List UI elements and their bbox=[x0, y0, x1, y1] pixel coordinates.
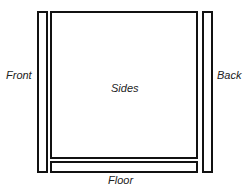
sides-label: Sides bbox=[111, 82, 139, 94]
floor-label: Floor bbox=[108, 174, 133, 186]
floor-panel bbox=[50, 161, 198, 173]
back-panel bbox=[202, 11, 213, 173]
back-label: Back bbox=[217, 69, 241, 81]
front-panel bbox=[37, 11, 48, 173]
front-label: Front bbox=[6, 69, 32, 81]
